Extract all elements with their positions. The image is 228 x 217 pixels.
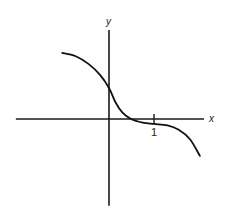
x-axis-label: x (208, 113, 215, 124)
function-graph: 1 x y (0, 0, 228, 217)
function-curve (62, 53, 200, 156)
x-tick-label: 1 (151, 126, 157, 138)
y-axis-label: y (105, 16, 112, 27)
